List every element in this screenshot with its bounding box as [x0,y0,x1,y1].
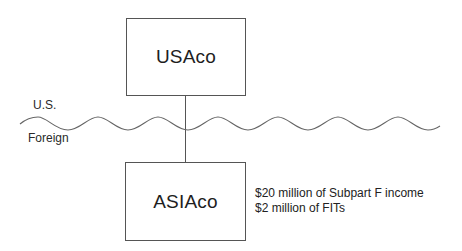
entity-label-asiaco: ASIAco [153,191,218,213]
entity-box-asiaco: ASIAco [125,162,246,241]
entity-label-usaco: USAco [156,46,216,68]
annotation-line-subpart-f: $20 million of Subpart F income [255,186,424,201]
ownership-diagram: USAco ASIAco U.S. Foreign $20 million of… [0,0,462,251]
entity-box-usaco: USAco [126,18,246,96]
income-annotation: $20 million of Subpart F income $2 milli… [255,186,424,216]
annotation-line-fits: $2 million of FITs [255,201,424,216]
border-wave-line [20,117,440,130]
region-label-foreign: Foreign [28,131,69,145]
region-label-us: U.S. [33,98,56,112]
